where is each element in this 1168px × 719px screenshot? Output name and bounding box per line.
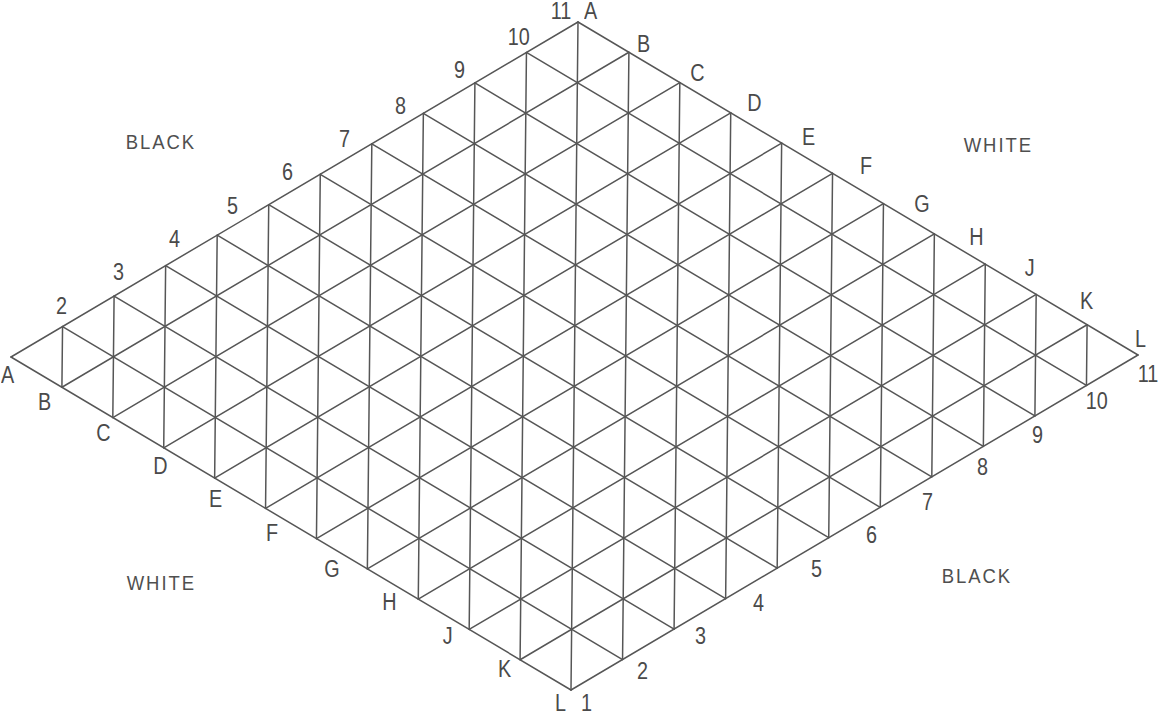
edge-label-number-9: 9 <box>454 59 465 82</box>
edge-label-letter-J: J <box>443 625 453 648</box>
lattice-line-u <box>571 355 1138 690</box>
edge-label-letter-C: C <box>690 62 704 85</box>
lattice-line-v <box>217 235 777 568</box>
edge-label-letter-F: F <box>266 522 278 545</box>
edge-label-letter-G: G <box>914 193 929 216</box>
edge-label-letter-K: K <box>1080 290 1093 313</box>
edge-label-letter-D: D <box>747 92 761 115</box>
lattice-line-w <box>777 143 781 568</box>
edge-label-letter-L: L <box>1135 328 1146 351</box>
lattice-line-v <box>63 327 623 660</box>
lattice-line-u <box>215 143 782 478</box>
side-label-white-bottom-left: WHITE <box>127 572 196 593</box>
edge-label-number-6: 6 <box>866 524 877 547</box>
triangular-lattice <box>0 0 1168 719</box>
lattice-line-w <box>469 83 475 630</box>
edge-label-letter-K: K <box>498 658 511 681</box>
edge-label-letter-E: E <box>802 126 815 149</box>
lattice-line-w <box>726 113 731 599</box>
lattice-line-w <box>623 52 629 659</box>
lattice-line-w <box>983 264 985 446</box>
lattice-line-w <box>113 296 114 417</box>
edge-label-number-11: 11 <box>1138 363 1159 386</box>
lattice-line-v <box>114 296 674 629</box>
lattice-line-w <box>266 205 269 509</box>
lattice-line-u <box>418 264 985 599</box>
edge-label-letter-B: B <box>38 391 51 414</box>
edge-label-number-5: 5 <box>811 558 822 581</box>
lattice-line-v <box>475 83 1035 416</box>
edge-label-letter-G: G <box>324 558 339 581</box>
edge-label-letter-A: A <box>1 364 14 387</box>
side-label-white-top-right: WHITE <box>964 134 1033 155</box>
edge-label-number-2: 2 <box>637 660 648 683</box>
lattice-line-w <box>571 22 578 690</box>
lattice-line-u <box>266 173 833 508</box>
edge-label-number-8: 8 <box>977 456 988 479</box>
lattice-line-w <box>164 266 166 448</box>
edge-label-number-7: 7 <box>922 491 933 514</box>
edge-label-letter-F: F <box>860 155 872 178</box>
lattice-line-u <box>62 52 629 387</box>
lattice-line-w <box>62 327 63 388</box>
lattice-line-w <box>418 113 423 599</box>
lattice-line-v <box>372 144 932 477</box>
edge-label-letter-C: C <box>96 422 110 445</box>
edge-label-letter-D: D <box>153 455 167 478</box>
lattice-line-v <box>166 266 726 599</box>
edge-label-number-2: 2 <box>56 295 67 318</box>
edge-label-number-3: 3 <box>113 261 124 284</box>
lattice-line-u <box>164 113 731 448</box>
edge-label-letter-H: H <box>382 591 396 614</box>
edge-label-number-4: 4 <box>169 228 180 251</box>
edge-label-number-5: 5 <box>227 195 238 218</box>
lattice-line-u <box>367 234 934 569</box>
edge-label-letter-A: A <box>584 0 597 23</box>
edge-label-number-1: 1 <box>581 692 592 715</box>
edge-label-number-6: 6 <box>282 161 293 184</box>
lattice-line-v <box>578 22 1138 355</box>
lattice-line-v <box>320 174 880 507</box>
edge-label-number-7: 7 <box>339 128 350 151</box>
edge-label-letter-J: J <box>1025 257 1035 280</box>
edge-label-number-3: 3 <box>695 625 706 648</box>
lattice-line-w <box>520 52 526 659</box>
game-board-figure: 111098765432ABCDEFGHJKLABCDEFGHJKL111098… <box>0 0 1168 719</box>
edge-label-number-10: 10 <box>508 26 530 49</box>
lattice-line-u <box>113 83 680 418</box>
edge-label-number-8: 8 <box>395 95 406 118</box>
edge-label-number-4: 4 <box>753 592 764 615</box>
edge-label-number-9: 9 <box>1032 424 1043 447</box>
edge-label-letter-H: H <box>969 226 983 249</box>
lattice-line-w <box>367 144 371 569</box>
lattice-line-w <box>1035 294 1036 415</box>
edge-label-letter-E: E <box>209 488 222 511</box>
edge-label-letter-B: B <box>637 33 650 56</box>
edge-label-number-10: 10 <box>1086 390 1108 413</box>
lattice-line-w <box>880 204 883 508</box>
lattice-line-u <box>316 204 883 539</box>
lattice-line-w <box>674 83 680 630</box>
lattice-line-v <box>526 52 1086 385</box>
edge-label-letter-L: L <box>555 692 566 715</box>
lattice-line-u <box>520 325 1087 660</box>
lattice-line-w <box>1086 325 1087 386</box>
lattice-line-v <box>269 205 829 538</box>
lattice-line-u <box>11 22 578 357</box>
lattice-line-v <box>11 357 571 690</box>
side-label-black-bottom-right: BLACK <box>942 565 1012 586</box>
lattice-line-v <box>423 113 983 446</box>
side-label-black-top-left: BLACK <box>126 131 196 152</box>
edge-label-number-11: 11 <box>551 0 572 23</box>
